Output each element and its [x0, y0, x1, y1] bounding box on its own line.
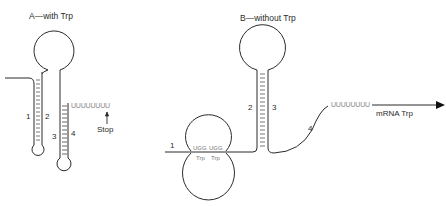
panel-b-stem-label-1: 1	[170, 142, 174, 150]
panel-a-top-loop	[34, 31, 74, 70]
panel-b-stem-label-2: 2	[248, 104, 252, 112]
panel-b-stem-label-4: 4	[308, 125, 312, 133]
panel-a-stem-label-4: 4	[71, 130, 75, 138]
panel-b-stem-label-3: 3	[272, 104, 276, 112]
aa-1: Trp	[196, 155, 205, 161]
ribosome-large-subunit	[183, 153, 235, 200]
panel-a-loop-12	[32, 145, 44, 155]
panel-b-u-tract: UUUUUUUU	[331, 101, 370, 108]
panel-a-title: A—with Trp	[29, 12, 73, 21]
panel-b-title: B—without Trp	[240, 14, 296, 23]
up-arrow-icon	[106, 112, 109, 124]
right-arrow-icon	[436, 101, 445, 109]
panel-a-stop-label: Stop	[97, 126, 113, 134]
aa-2: Trp	[211, 155, 220, 161]
codon-2: UGG	[209, 145, 223, 151]
mrna-label: mRNA Trp	[376, 110, 413, 118]
panel-b-mrna-left	[165, 70, 257, 152]
panel-b-top-loop	[240, 25, 286, 70]
panel-a-u-tract: UUUUUUUU	[71, 102, 110, 109]
panel-a-stem-label-2: 2	[45, 113, 49, 121]
panel-b-strand-3-4	[268, 70, 328, 153]
panel-a-loop-34	[57, 158, 71, 171]
codon-1: UGG	[193, 145, 207, 151]
attenuation-diagram	[0, 0, 446, 206]
panel-a-stem-label-1: 1	[26, 113, 30, 121]
panel-a-stem-label-3: 3	[52, 133, 56, 141]
